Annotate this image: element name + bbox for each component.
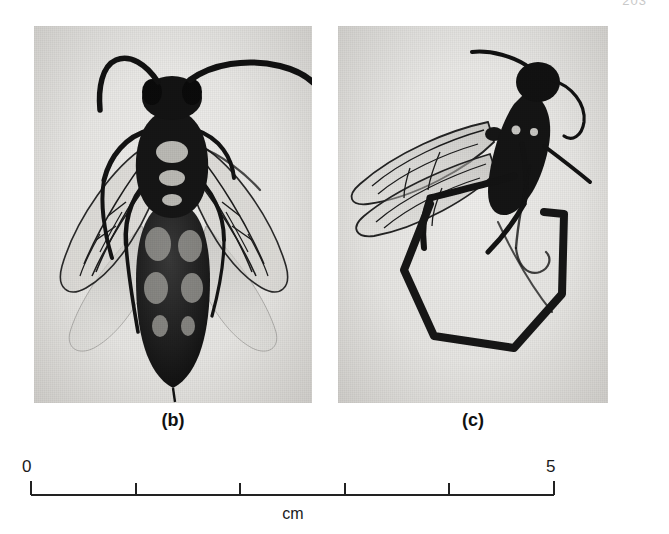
panel-caption-c: (c) <box>338 410 608 431</box>
scale-label-min: 0 <box>22 457 31 477</box>
photo-panel-b <box>34 26 312 403</box>
page-number: 203 <box>622 0 647 8</box>
panel-b-vignette <box>34 26 312 403</box>
scale-bar: 0 5 cm <box>0 455 669 534</box>
photo-panel-c <box>338 26 608 403</box>
scale-unit-label: cm <box>0 505 586 523</box>
figure-plate: 203 <box>0 0 669 534</box>
scale-label-max: 5 <box>546 457 555 477</box>
scale-bar-graphic <box>0 455 669 505</box>
panel-c-vignette <box>338 26 608 403</box>
panel-caption-b: (b) <box>34 410 312 431</box>
